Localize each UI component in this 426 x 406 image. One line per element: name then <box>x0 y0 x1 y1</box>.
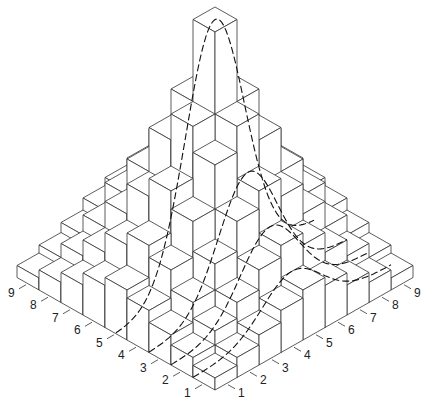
left-axis-tick <box>151 360 158 364</box>
left-axis-tick <box>19 285 26 289</box>
right-axis-tick <box>316 335 323 339</box>
right-axis-tick <box>338 322 345 326</box>
right-axis-label: 4 <box>304 348 311 362</box>
right-axis-label: 9 <box>414 286 421 300</box>
left-axis-tick <box>129 347 136 351</box>
right-axis-label: 7 <box>370 311 377 325</box>
right-axis-tick <box>294 347 301 351</box>
left-axis-label: 4 <box>118 348 125 362</box>
left-axis-tick <box>107 335 114 339</box>
right-axis-tick <box>272 360 279 364</box>
left-axis-tick <box>41 297 48 301</box>
left-axis-tick <box>63 310 70 314</box>
left-axis-label: 1 <box>184 386 191 400</box>
right-axis-label: 1 <box>238 386 245 400</box>
left-axis-label: 7 <box>52 311 59 325</box>
right-axis-label: 5 <box>326 336 333 350</box>
left-axis-label: 3 <box>140 361 147 375</box>
left-axis-tick <box>173 372 180 376</box>
histogram-figure: 123456789 123456789 <box>0 0 426 406</box>
left-axis-label: 6 <box>74 323 81 337</box>
right-axis-label: 2 <box>260 373 267 387</box>
left-axis-label: 9 <box>8 286 15 300</box>
left-axis-label: 2 <box>162 373 169 387</box>
right-axis-tick <box>250 372 257 376</box>
right-axis-tick <box>404 285 411 289</box>
left-axis-label: 5 <box>96 336 103 350</box>
left-axis-tick <box>85 322 92 326</box>
right-axis-label: 3 <box>282 361 289 375</box>
right-axis-label: 6 <box>348 323 355 337</box>
right-axis-tick <box>360 310 367 314</box>
right-axis-tick <box>382 297 389 301</box>
right-axis-label: 8 <box>392 298 399 312</box>
right-axis-tick <box>228 385 235 389</box>
left-axis-tick <box>195 385 202 389</box>
isometric-histogram: 123456789 123456789 <box>0 0 426 406</box>
left-axis-label: 8 <box>30 298 37 312</box>
